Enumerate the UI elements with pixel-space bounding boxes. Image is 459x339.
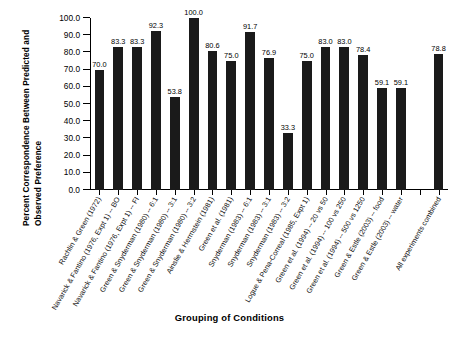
bar: 78.4 [358, 55, 368, 190]
bar-value-label: 78.4 [356, 45, 370, 54]
bar-value-label: 53.8 [168, 87, 182, 96]
plot-area: 100.090.080.070.060.050.040.030.020.010.… [90, 18, 448, 190]
y-axis-tick: 90.0 [83, 34, 90, 35]
bar: 59.1 [377, 88, 387, 190]
x-axis-tick [288, 190, 289, 195]
x-axis-tick [250, 190, 251, 195]
x-axis-tick [439, 190, 440, 195]
y-axis-title-line-1: Percent Correspondence Between Predicted… [22, 30, 31, 226]
y-axis-tick-label: 0.0 [68, 185, 80, 195]
x-axis-tick [194, 190, 195, 195]
y-axis-tick-label: 10.0 [64, 167, 80, 177]
bar-value-label: 83.3 [111, 37, 125, 46]
bar-chart-figure: Percent Correspondence Between Predicted… [0, 0, 459, 339]
y-axis-tick: 40.0 [83, 120, 90, 121]
y-axis-tick: 10.0 [83, 172, 90, 173]
x-axis-tick [118, 190, 119, 195]
y-axis-tick-label: 50.0 [64, 99, 80, 109]
x-axis-tick [175, 190, 176, 195]
bar-value-label: 83.0 [337, 37, 351, 46]
bar-value-label: 75.0 [299, 51, 313, 60]
y-axis-tick: 80.0 [83, 51, 90, 52]
y-axis-title-line-2: Observed Preference [34, 141, 43, 226]
bar-value-label: 70.0 [92, 60, 106, 69]
y-axis-tick-label: 40.0 [64, 116, 80, 126]
x-axis-tick [137, 190, 138, 195]
y-axis-tick: 60.0 [83, 86, 90, 87]
y-axis-tick-label: 20.0 [64, 150, 80, 160]
bar-value-label: 78.8 [431, 44, 445, 53]
y-axis-tick: 30.0 [83, 137, 90, 138]
bar-value-label: 92.3 [149, 21, 163, 30]
y-axis-title: Percent Correspondence Between Predicted… [0, 0, 42, 230]
bar: 83.0 [339, 47, 349, 190]
bar: 76.9 [264, 58, 274, 190]
bar: 80.6 [208, 51, 218, 190]
bar: 83.0 [321, 47, 331, 190]
y-axis-tick: 0.0 [83, 189, 90, 190]
bar: 53.8 [170, 97, 180, 190]
bar: 92.3 [151, 31, 161, 190]
x-axis-tick [401, 190, 402, 195]
bar-value-label: 100.0 [184, 8, 203, 17]
bar: 100.0 [189, 18, 199, 190]
bar-value-label: 33.3 [281, 123, 295, 132]
y-axis-tick: 70.0 [83, 69, 90, 70]
bar: 70.0 [95, 70, 105, 190]
bar: 91.7 [245, 32, 255, 190]
x-axis-tick [420, 190, 421, 195]
x-axis-tick [156, 190, 157, 195]
bar-value-label: 59.1 [394, 78, 408, 87]
bar-value-label: 59.1 [375, 78, 389, 87]
y-axis-tick-label: 60.0 [64, 81, 80, 91]
x-axis-tick [363, 190, 364, 195]
bar-value-label: 91.7 [243, 22, 257, 31]
bar: 83.3 [132, 47, 142, 190]
bar: 75.0 [302, 61, 312, 190]
x-axis-title: Grouping of Conditions [0, 312, 459, 323]
y-axis-tick-label: 90.0 [64, 30, 80, 40]
y-axis-tick-label: 80.0 [64, 47, 80, 57]
bar: 33.3 [283, 133, 293, 190]
bar: 78.8 [434, 54, 444, 190]
y-axis-tick-label: 30.0 [64, 133, 80, 143]
y-axis-tick: 100.0 [83, 17, 90, 18]
bar: 83.3 [113, 47, 123, 190]
y-axis-tick-label: 70.0 [64, 64, 80, 74]
bar-value-label: 76.9 [262, 48, 276, 57]
x-axis-tick [326, 190, 327, 195]
bar-value-label: 80.6 [205, 41, 219, 50]
bar: 75.0 [226, 61, 236, 190]
x-axis-tick [269, 190, 270, 195]
x-axis-tick [212, 190, 213, 195]
x-axis-tick [344, 190, 345, 195]
bar-value-label: 75.0 [224, 51, 238, 60]
bar-value-label: 83.0 [318, 37, 332, 46]
y-axis-tick: 20.0 [83, 155, 90, 156]
bar-value-label: 83.3 [130, 37, 144, 46]
x-axis-tick [307, 190, 308, 195]
x-axis-tick [99, 190, 100, 195]
x-axis-tick [231, 190, 232, 195]
y-axis-tick-label: 100.0 [59, 13, 80, 23]
y-axis-tick: 50.0 [83, 103, 90, 104]
x-axis-tick [382, 190, 383, 195]
bar: 59.1 [396, 88, 406, 190]
